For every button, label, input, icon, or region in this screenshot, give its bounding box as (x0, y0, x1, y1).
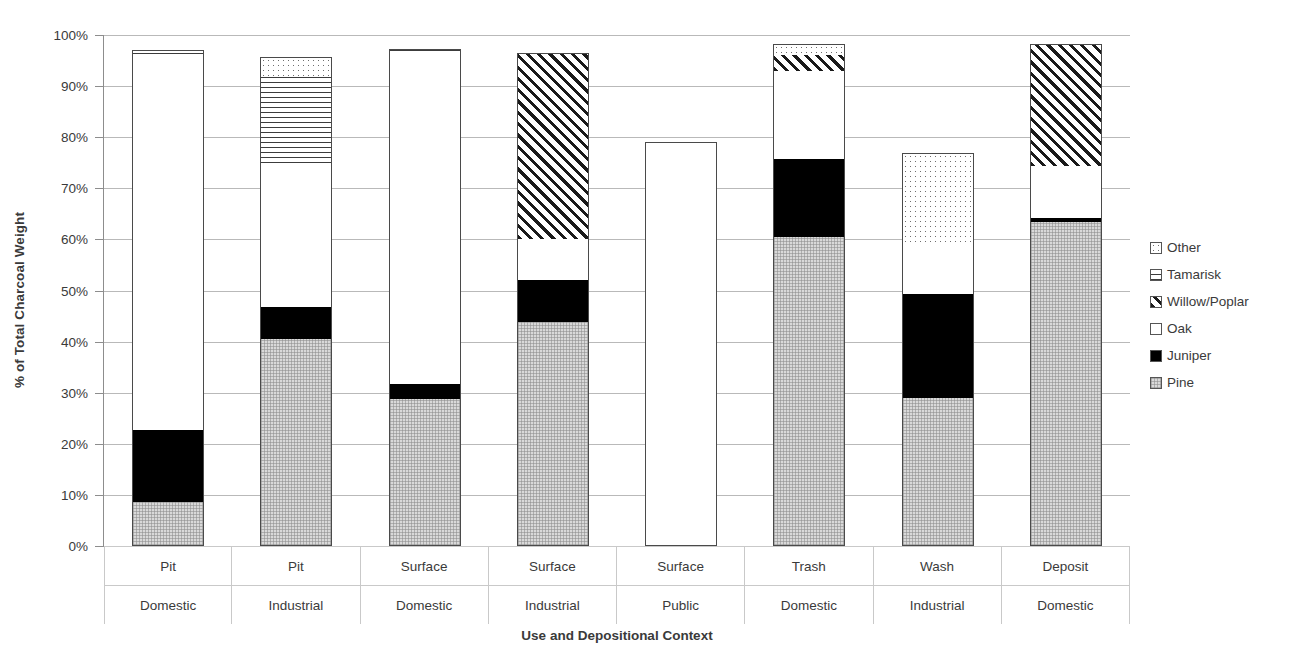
x-axis-label-primary: Pit (232, 547, 360, 585)
legend-item[interactable]: Other (1150, 240, 1249, 255)
stacked-bar[interactable] (773, 44, 845, 546)
legend-item[interactable]: Oak (1150, 321, 1249, 336)
bar-segment[interactable] (773, 44, 845, 55)
bar-segment[interactable] (132, 52, 204, 54)
stacked-bar-chart: % of Total Charcoal Weight 100%90%80%70%… (0, 0, 1294, 662)
y-axis-tick (95, 444, 104, 445)
y-axis-tick-label: 30% (61, 385, 88, 400)
y-axis-tick-label: 20% (61, 436, 88, 451)
x-axis-category-row-primary: PitPitSurfaceSurfaceSurfaceTrashWashDepo… (104, 546, 1130, 585)
bar-segment[interactable] (132, 50, 204, 52)
legend-item[interactable]: Tamarisk (1150, 267, 1249, 282)
y-axis-tick (95, 342, 104, 343)
bar-segment[interactable] (773, 71, 845, 159)
bar-segment[interactable] (260, 57, 332, 76)
bar-segment[interactable] (517, 239, 589, 280)
bar-segment[interactable] (902, 153, 974, 245)
x-axis-label-primary: Surface (361, 547, 489, 585)
y-axis-tick (95, 86, 104, 87)
y-axis-tick (95, 35, 104, 36)
bar-slot (874, 35, 1002, 546)
bar-segment[interactable] (389, 384, 461, 399)
legend-item[interactable]: Pine (1150, 375, 1249, 390)
y-axis-tick (95, 239, 104, 240)
bar-segment[interactable] (517, 53, 589, 238)
bar-segment[interactable] (1030, 166, 1102, 218)
y-axis-tick (95, 495, 104, 496)
bar-slot (617, 35, 745, 546)
y-axis-tick (95, 291, 104, 292)
y-axis-tick (95, 546, 104, 547)
y-axis-tick-label: 50% (61, 283, 88, 298)
x-axis-label-secondary: Industrial (232, 586, 360, 624)
y-axis-tick (95, 188, 104, 189)
bar-segment[interactable] (517, 280, 589, 322)
legend-item-label: Juniper (1167, 348, 1211, 363)
bar-segment[interactable] (645, 142, 717, 546)
bar-segment[interactable] (132, 502, 204, 546)
x-axis-label-secondary: Public (617, 586, 745, 624)
bar-segment[interactable] (132, 54, 204, 430)
bar-segment[interactable] (517, 322, 589, 546)
bar-segment[interactable] (260, 163, 332, 307)
x-axis-label-primary: Surface (617, 547, 745, 585)
bar-segment[interactable] (902, 398, 974, 546)
y-axis-tick-label: 0% (68, 539, 88, 554)
bar-segment[interactable] (389, 399, 461, 546)
bar-segment[interactable] (389, 49, 461, 50)
bar-segment[interactable] (260, 76, 332, 163)
bar-segment[interactable] (773, 237, 845, 546)
x-axis-label-primary: Deposit (1002, 547, 1130, 585)
y-axis-tick-labels: 100%90%80%70%60%50%40%30%20%10%0% (0, 35, 104, 546)
solid-black-swatch (1150, 350, 1162, 362)
bar-segment[interactable] (132, 430, 204, 502)
white-swatch (1150, 323, 1162, 335)
bar-segment[interactable] (1030, 218, 1102, 221)
y-axis-tick-label: 90% (61, 79, 88, 94)
legend-item-label: Other (1167, 240, 1201, 255)
bar-segment[interactable] (902, 294, 974, 399)
legend: OtherTamariskWillow/PoplarOakJuniperPine (1150, 240, 1249, 390)
legend-item-label: Oak (1167, 321, 1192, 336)
y-axis-tick (95, 137, 104, 138)
legend-item[interactable]: Willow/Poplar (1150, 294, 1249, 309)
bar-slot (489, 35, 617, 546)
legend-item-label: Willow/Poplar (1167, 294, 1249, 309)
bar-segment[interactable] (260, 307, 332, 339)
x-axis-label-secondary: Domestic (104, 586, 232, 624)
x-axis-label-secondary: Domestic (361, 586, 489, 624)
stacked-bar[interactable] (1030, 44, 1102, 546)
x-axis-label-primary: Surface (489, 547, 617, 585)
bar-segment[interactable] (773, 55, 845, 71)
stacked-bar[interactable] (132, 50, 204, 546)
y-axis-tick-label: 10% (61, 487, 88, 502)
bar-slot (745, 35, 873, 546)
bar-slot (232, 35, 360, 546)
stacked-bar[interactable] (517, 53, 589, 546)
plot-area (104, 35, 1130, 546)
x-axis-label-primary: Wash (874, 547, 1002, 585)
x-axis-label-secondary: Domestic (1002, 586, 1130, 624)
legend-item-label: Pine (1167, 375, 1194, 390)
light-gray-swatch (1150, 377, 1162, 389)
bar-segment[interactable] (1030, 44, 1102, 166)
y-axis-tick-label: 40% (61, 334, 88, 349)
bar-segment[interactable] (260, 339, 332, 546)
legend-item[interactable]: Juniper (1150, 348, 1249, 363)
x-axis-label-primary: Trash (745, 547, 873, 585)
y-axis-tick-label: 80% (61, 130, 88, 145)
bar-segment[interactable] (389, 51, 461, 383)
y-axis-tick-label: 70% (61, 181, 88, 196)
x-axis-category-row-secondary: DomesticIndustrialDomesticIndustrialPubl… (104, 585, 1130, 624)
stacked-bar[interactable] (260, 57, 332, 546)
x-axis-label-secondary: Industrial (874, 586, 1002, 624)
bar-segment[interactable] (1030, 222, 1102, 546)
stacked-bar[interactable] (389, 49, 461, 546)
bar-segment[interactable] (902, 245, 974, 294)
horizontal-lines-swatch (1150, 269, 1162, 281)
y-axis-tick-label: 60% (61, 232, 88, 247)
stacked-bar[interactable] (902, 153, 974, 546)
x-axis-title: Use and Depositional Context (104, 628, 1130, 643)
stacked-bar[interactable] (645, 142, 717, 546)
bar-segment[interactable] (773, 159, 845, 237)
